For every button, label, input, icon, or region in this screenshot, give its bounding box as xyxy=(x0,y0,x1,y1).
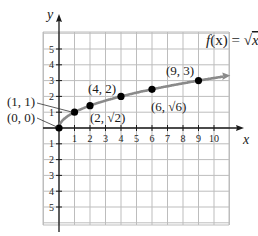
svg-text:2: 2 xyxy=(88,133,93,144)
svg-text:10: 10 xyxy=(209,133,219,144)
svg-text:(6, √6): (6, √6) xyxy=(151,99,186,114)
sqrt-graph: 123456789102345123451 (0, 0)(1, 1)(2, √2… xyxy=(0,0,258,236)
svg-text:5: 5 xyxy=(134,133,139,144)
function-label: f(x) = √x xyxy=(206,32,258,49)
y-axis-label: y xyxy=(45,7,54,22)
svg-text:7: 7 xyxy=(165,133,170,144)
x-axis-label: x xyxy=(242,132,250,147)
svg-text:2: 2 xyxy=(49,154,54,165)
svg-text:3: 3 xyxy=(103,133,108,144)
svg-text:9: 9 xyxy=(196,133,201,144)
svg-text:(9, 3): (9, 3) xyxy=(166,63,194,78)
svg-text:5: 5 xyxy=(49,44,54,55)
svg-text:3: 3 xyxy=(49,75,54,86)
svg-text:4: 4 xyxy=(49,186,54,197)
svg-text:(4, 2): (4, 2) xyxy=(88,81,116,96)
svg-text:2: 2 xyxy=(49,91,54,102)
svg-text:(0, 0): (0, 0) xyxy=(7,110,35,125)
data-points: (0, 0)(1, 1)(2, √2)(4, 2)(6, √6)(9, 3) xyxy=(7,63,202,132)
svg-text:1: 1 xyxy=(72,133,77,144)
svg-text:4: 4 xyxy=(119,133,124,144)
svg-text:8: 8 xyxy=(181,133,186,144)
svg-text:(2, √2): (2, √2) xyxy=(90,110,125,125)
svg-text:1: 1 xyxy=(49,107,54,118)
svg-text:6: 6 xyxy=(150,133,155,144)
svg-text:1: 1 xyxy=(49,138,54,149)
svg-text:5: 5 xyxy=(49,202,54,213)
svg-text:(1, 1): (1, 1) xyxy=(7,94,35,109)
svg-text:3: 3 xyxy=(49,170,54,181)
svg-text:4: 4 xyxy=(49,59,54,70)
